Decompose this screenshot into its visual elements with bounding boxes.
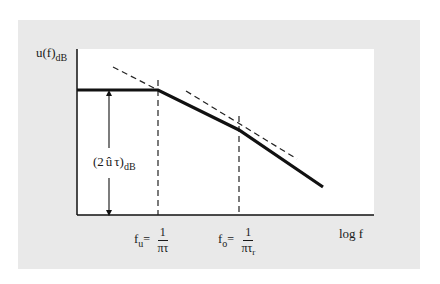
y-axis-label-main: u(f)	[36, 45, 56, 60]
amplitude-label: (2ûτ)dB	[93, 155, 136, 168]
fo-denominator-sub: r	[252, 247, 255, 257]
fu-denominator: πτ	[157, 241, 168, 255]
amplitude-label-open: (2	[93, 154, 104, 169]
asymptote-dashed-2	[186, 91, 297, 159]
fo-denominator: πτr	[241, 241, 255, 255]
amplitude-label-symbol: û	[106, 154, 113, 169]
asymptote-dashed-1	[113, 67, 158, 90]
amplitude-label-sub: dB	[124, 161, 136, 172]
x-axis-label: log f	[339, 227, 363, 240]
fu-equals: =	[143, 232, 150, 246]
fo-fraction: 1 πτr	[241, 226, 255, 254]
corner-frequency-label-fu: fu= 1 πτ	[134, 226, 168, 254]
magnitude-curve	[77, 90, 323, 187]
fu-numerator: 1	[158, 226, 168, 241]
corner-frequency-label-fo: fo= 1 πτr	[218, 226, 255, 254]
fo-denominator-text: πτ	[241, 241, 252, 255]
fu-subscript: u	[138, 238, 143, 249]
amplitude-label-tau: τ)	[114, 154, 124, 169]
y-axis-label: u(f)dB	[36, 46, 67, 59]
fu-fraction: 1 πτ	[157, 226, 168, 254]
fo-numerator: 1	[243, 226, 253, 241]
fu-denominator-text: πτ	[157, 241, 168, 255]
y-axis-label-sub: dB	[56, 52, 68, 63]
fo-subscript: o	[222, 238, 227, 249]
fo-equals: =	[227, 232, 234, 246]
